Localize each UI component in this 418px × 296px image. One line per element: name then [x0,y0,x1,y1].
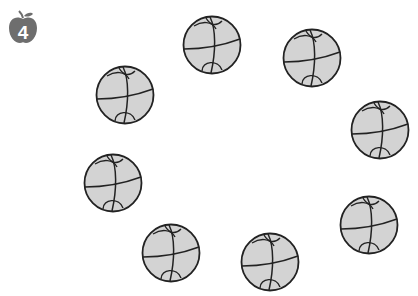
basketball-icon [350,100,410,160]
basketball-icon [141,223,201,283]
counting-worksheet: 4 [0,0,418,296]
apple-icon: 4 [8,10,38,44]
basketball-icon [282,28,342,88]
basketball-icon [339,195,399,255]
basketball-icon [182,15,242,75]
badge-number: 4 [18,22,29,43]
basketball-icon [83,153,143,213]
apple-number-badge: 4 [8,10,38,44]
basketball-icon [240,232,300,292]
basketball-icon [95,65,155,125]
